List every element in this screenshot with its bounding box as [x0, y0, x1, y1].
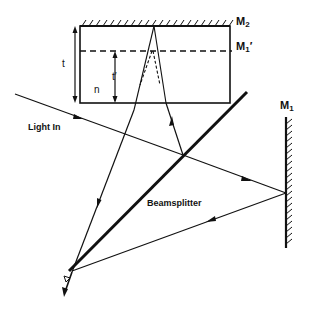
ray-to-m2	[166, 103, 183, 155]
ray-to-m1	[183, 155, 286, 193]
virtual-ray-left	[140, 51, 152, 85]
dielectric-plate	[80, 26, 230, 103]
ray-from-m2	[72, 110, 134, 272]
ray-to-m1-arrow-icon	[241, 176, 252, 181]
label-light-in: Light In	[28, 123, 61, 132]
thickness-arrow-down-icon	[73, 96, 78, 103]
ray-plate-left	[134, 26, 154, 110]
interferometer-diagram	[0, 0, 311, 317]
apparent-thickness-arrow-down-icon	[113, 96, 118, 103]
label-thickness: t	[62, 59, 65, 69]
label-apparent-thickness: t′	[112, 72, 117, 82]
ray-to-m2-arrow-icon	[169, 116, 174, 126]
ray-plate-right	[154, 26, 166, 103]
label-m1: M1	[280, 100, 294, 113]
label-beamsplitter: Beamsplitter	[147, 199, 202, 208]
ray-from-m1-arrow-icon	[206, 216, 216, 222]
ray-output-arrow-icon	[62, 287, 68, 297]
beamsplitter	[69, 92, 247, 271]
label-m2: M2	[236, 16, 250, 29]
ray-from-m2-arrow-icon	[97, 198, 102, 208]
apparent-thickness-arrow-up-icon	[113, 51, 118, 58]
ray-light-in-arrow-icon	[73, 114, 83, 119]
thickness-arrow-up-icon	[73, 26, 78, 33]
label-m1-image: M1′	[236, 41, 252, 54]
label-refractive-index: n	[94, 85, 100, 95]
